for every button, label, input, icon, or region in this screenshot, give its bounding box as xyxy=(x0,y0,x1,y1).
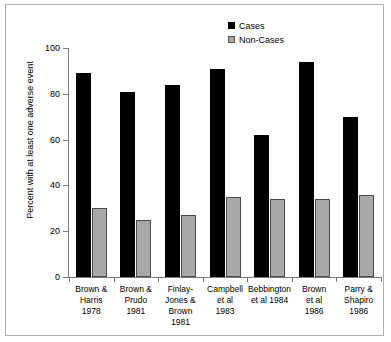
bar-cases xyxy=(76,73,91,277)
y-tick-label: 0 xyxy=(30,273,60,282)
bar-non-cases xyxy=(92,208,107,277)
legend-item-cases: Cases xyxy=(228,19,328,32)
y-tick-mark xyxy=(63,231,68,232)
x-tick-mark xyxy=(381,278,382,282)
legend-swatch-non-cases-icon xyxy=(228,36,235,43)
y-tick-label-wrap: 20 xyxy=(26,227,60,236)
legend-swatch-cases-icon xyxy=(228,22,235,29)
x-axis-label-line: Parry & xyxy=(332,284,385,295)
x-axis-label-line: Shapiro xyxy=(332,295,385,306)
bar-cases xyxy=(165,85,180,277)
y-tick-label: 20 xyxy=(30,227,60,236)
chart-legend: Cases Non-Cases xyxy=(228,19,328,47)
y-tick-label: 40 xyxy=(30,181,60,190)
bar-cases xyxy=(254,135,269,277)
plot-area xyxy=(69,48,381,277)
x-tick-mark xyxy=(69,278,70,282)
bar-cases xyxy=(120,92,135,277)
bar-cases xyxy=(210,69,225,277)
legend-item-non-cases: Non-Cases xyxy=(228,33,328,46)
bar-non-cases xyxy=(226,197,241,277)
x-tick-mark xyxy=(114,278,115,282)
bar-non-cases xyxy=(315,199,330,277)
legend-label-cases: Cases xyxy=(239,21,265,31)
y-tick-label-wrap: 0 xyxy=(26,273,60,282)
y-tick-label-wrap: 80 xyxy=(26,90,60,99)
bar-non-cases xyxy=(270,199,285,277)
bar-non-cases xyxy=(359,195,374,277)
x-axis-line xyxy=(68,277,382,278)
figure-frame: Cases Non-Cases Percent with at least on… xyxy=(5,4,384,336)
bar-non-cases xyxy=(181,215,196,277)
x-tick-mark xyxy=(247,278,248,282)
y-tick-mark xyxy=(63,140,68,141)
y-tick-mark xyxy=(63,185,68,186)
legend-label-non-cases: Non-Cases xyxy=(239,35,284,45)
bar-cases xyxy=(343,117,358,277)
x-axis-label-line: 1986 xyxy=(332,306,385,317)
y-tick-label: 60 xyxy=(30,136,60,145)
y-tick-label-wrap: 100 xyxy=(26,44,60,53)
y-tick-mark xyxy=(63,94,68,95)
x-tick-mark xyxy=(203,278,204,282)
bar-non-cases xyxy=(136,220,151,277)
x-tick-mark xyxy=(292,278,293,282)
y-tick-label-wrap: 40 xyxy=(26,181,60,190)
y-tick-mark xyxy=(63,48,68,49)
x-axis-label: Parry &Shapiro1986 xyxy=(332,284,385,317)
x-tick-mark xyxy=(336,278,337,282)
x-axis-label-line: 1983 xyxy=(199,306,252,317)
y-tick-label-wrap: 60 xyxy=(26,136,60,145)
x-tick-mark xyxy=(158,278,159,282)
bar-cases xyxy=(299,62,314,277)
x-axis-label-line: 1981 xyxy=(154,317,207,328)
y-tick-label: 80 xyxy=(30,90,60,99)
y-tick-label: 100 xyxy=(30,44,60,53)
y-tick-mark xyxy=(63,277,68,278)
